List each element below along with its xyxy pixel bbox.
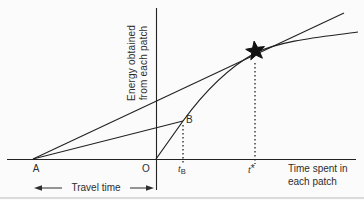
origin-label: O	[140, 163, 152, 175]
scan-edge-line	[0, 197, 364, 199]
y-axis-label: Energy obtained from each patch	[126, 13, 150, 113]
x-axis-label-line1: Time spent in	[288, 162, 348, 175]
tick-label-tstar: t*	[248, 163, 255, 176]
point-b-label: B	[186, 114, 193, 126]
tb-subscript: B	[181, 167, 186, 176]
y-axis-label-line1: Energy obtained	[126, 13, 138, 113]
tstar-asterisk: *	[251, 163, 255, 174]
y-axis-label-line2: from each patch	[138, 13, 150, 113]
x-axis-label: Time spent in each patch	[288, 162, 348, 188]
arrow-right-icon	[146, 185, 154, 191]
tick-label-tb: tB	[178, 163, 186, 178]
marginal-value-theorem-diagram: Energy obtained from each patch Time spe…	[0, 0, 364, 200]
point-a-label: A	[30, 163, 42, 175]
x-axis-label-line2: each patch	[288, 175, 348, 188]
travel-time-label: Travel time	[60, 182, 132, 193]
arrow-left-icon	[34, 185, 42, 191]
tangent-line-a-to-optimum	[33, 13, 344, 159]
